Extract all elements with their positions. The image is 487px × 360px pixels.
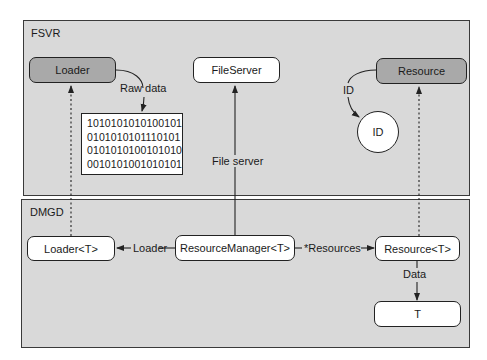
- raw-data-line: 0101010101110101: [87, 131, 182, 145]
- raw-data-line: 1010101010100101: [87, 117, 182, 131]
- t-node-label: T: [414, 308, 421, 320]
- loader-t-node: Loader<T>: [27, 236, 115, 261]
- loader-edge-label: Loader: [133, 242, 167, 254]
- resource-t-node: Resource<T>: [375, 236, 460, 261]
- dmgd-label: DMGD: [30, 206, 64, 218]
- id-circle-label: ID: [373, 126, 384, 138]
- resource-manager-node: ResourceManager<T>: [175, 235, 295, 261]
- raw-data-line: 0101010100101010: [87, 144, 182, 158]
- fileserver-node-label: FileServer: [211, 64, 261, 76]
- raw-data-line: 0010101001010101: [87, 158, 182, 172]
- resource-t-label: Resource<T>: [384, 243, 451, 255]
- data-edge-label: Data: [403, 268, 426, 280]
- raw-data-box: 1010101010100101 0101010101110101 010101…: [81, 113, 183, 175]
- loader-node: Loader: [29, 57, 116, 83]
- id-edge-label: ID: [343, 84, 354, 96]
- resources-edge-label: *Resources: [304, 242, 361, 254]
- loader-t-label: Loader<T>: [44, 243, 98, 255]
- fileserver-node: FileServer: [193, 57, 280, 83]
- t-node: T: [374, 301, 461, 327]
- resource-node: Resource: [376, 58, 467, 84]
- id-circle-node: ID: [357, 111, 399, 153]
- file-server-edge-label: File server: [210, 155, 265, 167]
- raw-data-edge-label: Raw data: [120, 82, 166, 94]
- fsvr-label: FSVR: [31, 27, 60, 39]
- resource-node-label: Resource: [398, 65, 445, 77]
- loader-node-label: Loader: [55, 64, 89, 76]
- resource-manager-label: ResourceManager<T>: [180, 242, 290, 254]
